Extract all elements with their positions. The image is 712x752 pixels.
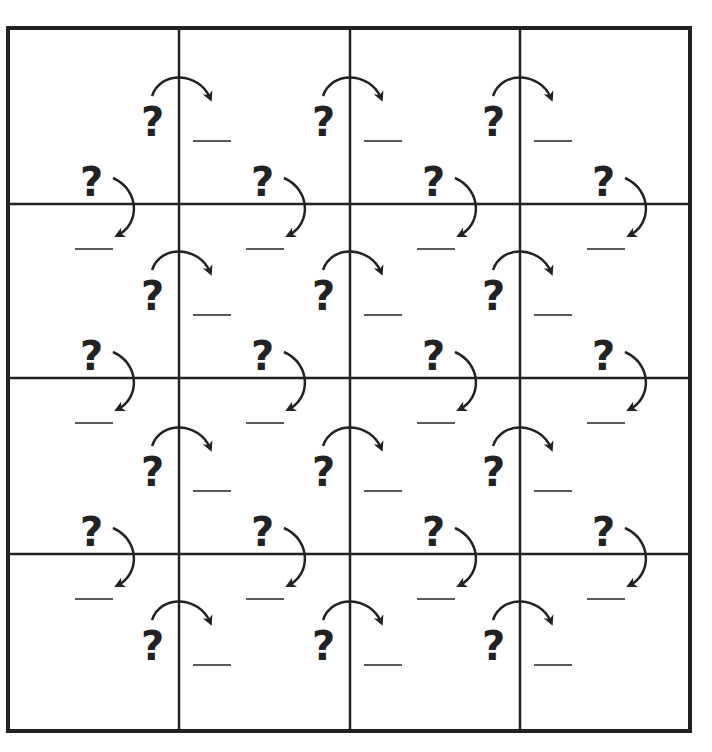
curved-arrow-icon <box>625 528 646 585</box>
horizontal-clue: ? <box>141 601 231 669</box>
curved-arrow-icon <box>455 528 476 585</box>
horizontal-clue: ? <box>312 601 402 669</box>
horizontal-clue: ? <box>482 77 572 145</box>
horizontal-clue: ? <box>312 251 402 319</box>
curved-arrow-icon <box>625 178 646 235</box>
question-mark: ? <box>592 159 615 205</box>
curved-arrow-icon <box>113 178 134 235</box>
puzzle-grid: ???????????? ???????????? <box>0 0 712 752</box>
curved-arrow-icon <box>284 178 305 235</box>
question-mark: ? <box>592 333 615 379</box>
question-mark: ? <box>482 273 505 319</box>
question-mark: ? <box>482 623 505 669</box>
horizontal-clue: ? <box>312 77 402 145</box>
question-mark: ? <box>422 509 445 555</box>
curved-arrow-icon <box>493 601 551 622</box>
question-mark: ? <box>141 623 164 669</box>
question-mark: ? <box>312 273 335 319</box>
horizontal-clue: ? <box>482 251 572 319</box>
question-mark: ? <box>422 333 445 379</box>
curved-arrow-icon <box>493 251 551 272</box>
horizontal-clue: ? <box>141 427 231 495</box>
question-mark: ? <box>312 449 335 495</box>
question-mark: ? <box>251 333 274 379</box>
question-mark: ? <box>251 159 274 205</box>
horizontal-clues: ???????????? <box>141 77 572 669</box>
question-mark: ? <box>312 623 335 669</box>
curved-arrow-icon <box>323 427 381 448</box>
horizontal-clue: ? <box>482 427 572 495</box>
curved-arrow-icon <box>323 601 381 622</box>
horizontal-clue: ? <box>312 427 402 495</box>
curved-arrow-icon <box>113 352 134 409</box>
horizontal-clue: ? <box>482 601 572 669</box>
question-mark: ? <box>80 159 103 205</box>
curved-arrow-icon <box>323 77 381 98</box>
question-mark: ? <box>312 99 335 145</box>
question-mark: ? <box>482 449 505 495</box>
question-mark: ? <box>251 509 274 555</box>
curved-arrow-icon <box>455 178 476 235</box>
question-mark: ? <box>80 333 103 379</box>
horizontal-clue: ? <box>141 251 231 319</box>
curved-arrow-icon <box>152 77 210 98</box>
curved-arrow-icon <box>493 77 551 98</box>
curved-arrow-icon <box>152 601 210 622</box>
horizontal-clue: ? <box>141 77 231 145</box>
question-mark: ? <box>141 449 164 495</box>
curved-arrow-icon <box>284 352 305 409</box>
grid-lines <box>8 28 690 731</box>
curved-arrow-icon <box>455 352 476 409</box>
curved-arrow-icon <box>284 528 305 585</box>
question-mark: ? <box>592 509 615 555</box>
curved-arrow-icon <box>625 352 646 409</box>
question-mark: ? <box>141 273 164 319</box>
question-mark: ? <box>482 99 505 145</box>
curved-arrow-icon <box>113 528 134 585</box>
question-mark: ? <box>422 159 445 205</box>
curved-arrow-icon <box>493 427 551 448</box>
curved-arrow-icon <box>152 427 210 448</box>
question-mark: ? <box>141 99 164 145</box>
question-mark: ? <box>80 509 103 555</box>
curved-arrow-icon <box>323 251 381 272</box>
curved-arrow-icon <box>152 251 210 272</box>
